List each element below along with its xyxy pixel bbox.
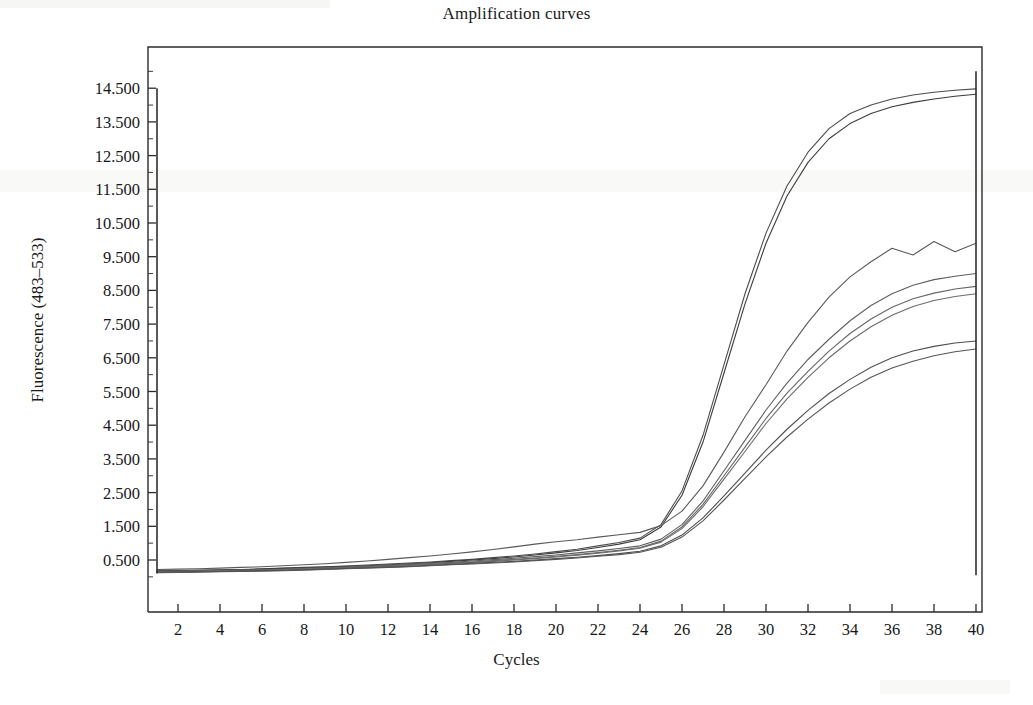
- y-tick-label: 13.500: [95, 113, 140, 132]
- x-tick-label: 36: [884, 620, 901, 639]
- y-tick-label: 9.500: [103, 248, 140, 267]
- amplification-curves: [157, 89, 976, 573]
- x-tick-label: 6: [258, 620, 266, 639]
- y-tick-label: 0.500: [103, 551, 140, 570]
- x-tick-label: 34: [842, 620, 859, 639]
- y-tick-label: 3.500: [103, 450, 140, 469]
- amplification-curve: [157, 341, 976, 573]
- y-tick-label: 1.500: [103, 517, 140, 536]
- amplification-curve: [157, 242, 976, 570]
- x-tick-label: 18: [506, 620, 523, 639]
- y-tick-label: 8.500: [103, 281, 140, 300]
- x-tick-labels: 246810121416182022242628303234363840: [174, 620, 984, 639]
- x-tick-label: 38: [926, 620, 943, 639]
- x-tick-label: 10: [338, 620, 355, 639]
- x-tick-label: 14: [422, 620, 439, 639]
- x-tick-label: 20: [548, 620, 565, 639]
- amplification-curve: [157, 349, 976, 573]
- x-tick-label: 16: [464, 620, 481, 639]
- y-tick-label: 5.500: [103, 383, 140, 402]
- cycle-markers: [157, 71, 976, 575]
- x-tick-label: 8: [300, 620, 308, 639]
- y-tick-label: 11.500: [95, 180, 140, 199]
- amplification-curve: [157, 94, 976, 571]
- x-tick-label: 40: [968, 620, 985, 639]
- y-tick-labels: 0.5001.5002.5003.5004.5005.5006.5007.500…: [95, 79, 140, 570]
- y-tick-label: 6.500: [103, 349, 140, 368]
- x-tick-label: 32: [800, 620, 817, 639]
- x-tick-label: 26: [674, 620, 691, 639]
- y-tick-label: 14.500: [95, 79, 140, 98]
- y-tick-label: 2.500: [103, 484, 140, 503]
- x-tick-label: 2: [174, 620, 182, 639]
- y-axis-ticks: [148, 71, 156, 576]
- x-tick-label: 4: [216, 620, 224, 639]
- amplification-curve: [157, 89, 976, 571]
- x-tick-label: 30: [758, 620, 775, 639]
- x-tick-label: 22: [590, 620, 607, 639]
- x-tick-label: 12: [380, 620, 397, 639]
- y-tick-label: 4.500: [103, 416, 140, 435]
- y-tick-label: 12.500: [95, 147, 140, 166]
- amplification-curve: [157, 274, 976, 572]
- x-tick-label: 24: [632, 620, 649, 639]
- figure-canvas: Amplification curves Fluorescence (483–5…: [0, 0, 1033, 705]
- plot-frame: [148, 47, 982, 612]
- x-tick-label: 28: [716, 620, 733, 639]
- y-tick-label: 7.500: [103, 315, 140, 334]
- x-axis-ticks: [178, 604, 976, 612]
- amplification-curve: [157, 286, 976, 571]
- amplification-curve: [157, 294, 976, 572]
- plot-area: 0.5001.5002.5003.5004.5005.5006.5007.500…: [0, 0, 1033, 705]
- y-tick-label: 10.500: [95, 214, 140, 233]
